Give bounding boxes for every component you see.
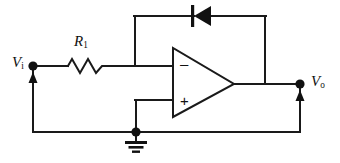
noninverting-input-sign: + [180,93,189,108]
input-node-dot [28,61,37,70]
diode-feedback [191,5,211,27]
resistor-r1 [68,59,106,73]
output-voltage-arrow-head [296,90,305,101]
input-voltage-subscript: i [21,61,24,71]
diode-triangle [194,6,211,26]
input-voltage-label: Vi [12,55,24,71]
resistor-zigzag [68,59,106,73]
resistor-subscript: 1 [83,40,88,50]
circuit-diagram: Vi Vo R1 – + [0,0,340,163]
input-voltage-symbol: V [12,54,21,70]
inverting-input-sign: – [180,56,188,71]
ground-bar-3 [132,151,140,153]
input-voltage-arrow-head [29,72,38,83]
ground-node-dot [131,127,140,136]
output-voltage-subscript: o [320,80,325,90]
diode-cathode-bar [191,5,194,27]
ground-bar-1 [125,141,147,144]
output-voltage-label: Vo [311,74,325,90]
output-node-dot [295,79,304,88]
resistor-symbol: R [74,33,83,49]
resistor-label: R1 [74,34,88,50]
schematic-canvas [0,0,340,163]
output-voltage-symbol: V [311,73,320,89]
ground-bar-2 [129,146,144,149]
